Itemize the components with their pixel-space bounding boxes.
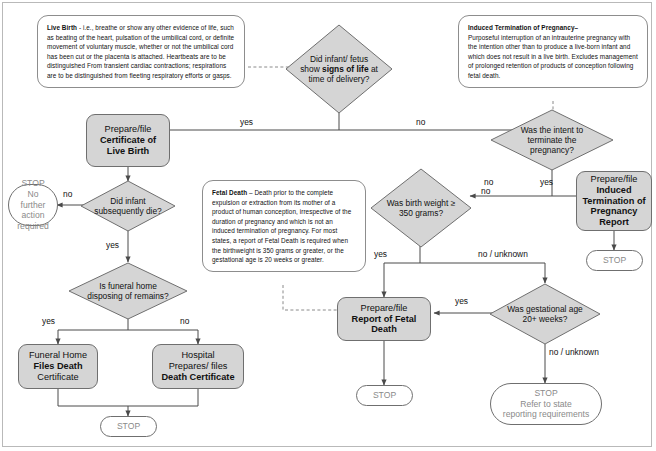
process-live-birth-line1: Prepare/file bbox=[91, 124, 165, 135]
terminator-stop-refer-to-state[interactable]: STOP Refer to state reporting requiremen… bbox=[490, 383, 602, 425]
stop-no-action-line3: action required bbox=[15, 210, 51, 231]
decision-intent-to-terminate[interactable]: Was the intent to terminate the pregnanc… bbox=[490, 109, 614, 171]
process-funeral-home-files-death-certificate[interactable]: Funeral Home Files Death Certificate bbox=[18, 344, 98, 389]
edge-label-weight-yes: yes bbox=[374, 250, 387, 260]
stop-itop-line1: STOP bbox=[603, 255, 626, 266]
edge-label-gest-no-unknown: no / unknown bbox=[549, 348, 599, 358]
decision-funeral-home-disposing[interactable]: Is funeral home disposing of remains? bbox=[68, 262, 188, 320]
funeral-line1: Funeral Home bbox=[29, 350, 87, 361]
edge-label-life-yes: yes bbox=[240, 118, 253, 128]
terminator-stop-fetal-death[interactable]: STOP bbox=[356, 385, 413, 406]
stop-fetal-death-line1: STOP bbox=[373, 390, 396, 401]
stop-no-action-line2: No further bbox=[15, 189, 51, 210]
note-fetal-death-term: Fetal Death bbox=[212, 189, 247, 196]
note-fetal-death-body: – Death prior to the complete expulsion … bbox=[212, 189, 351, 263]
edge-label-subseq-yes: yes bbox=[106, 241, 119, 251]
process-certificate-of-live-birth[interactable]: Prepare/file Certificate of Live Birth bbox=[86, 114, 170, 167]
note-fetal-death: Fetal Death – Death prior to the complet… bbox=[202, 180, 366, 272]
process-hospital-prepares-death-certificate[interactable]: Hospital Prepares/ files Death Certifica… bbox=[152, 344, 244, 389]
decision-signs-of-life[interactable]: Did infant/ fetus show signs of life at … bbox=[285, 24, 393, 114]
process-report-of-fetal-death[interactable]: Prepare/file Report of Fetal Death bbox=[337, 297, 431, 341]
hospital-line1: Hospital bbox=[161, 350, 234, 361]
edge-label-funeral-yes: yes bbox=[42, 317, 55, 327]
edge-label-life-no: no bbox=[416, 118, 425, 128]
txt-em: signs of life bbox=[322, 64, 369, 74]
stop-death-cert-line1: STOP bbox=[117, 421, 140, 432]
stop-no-action-line1: STOP bbox=[15, 178, 51, 189]
decision-gestational-age[interactable]: Was gestational age 20+ weeks? bbox=[489, 283, 601, 345]
terminator-stop-itop[interactable]: STOP bbox=[586, 250, 643, 271]
note-live-birth-term: Live Birth bbox=[47, 24, 77, 31]
flowchart-canvas: Live Birth - i.e., breathe or show any o… bbox=[0, 0, 656, 451]
edge-label-subseq-no: no bbox=[63, 190, 72, 200]
decision-signs-of-life-label: Did infant/ fetus show signs of life at … bbox=[300, 54, 378, 84]
edge-label-weight-no: no bbox=[481, 187, 490, 197]
note-live-birth: Live Birth - i.e., breathe or show any o… bbox=[37, 15, 245, 88]
decision-intent-label: Was the intent to terminate the pregnanc… bbox=[507, 125, 596, 155]
decision-did-infant-subsequently-die[interactable]: Did infant subsequently die? bbox=[80, 180, 176, 232]
hospital-line2: Prepares/ files bbox=[161, 361, 234, 372]
funeral-line3: Certificate bbox=[29, 372, 87, 383]
edge-label-gest-yes: yes bbox=[455, 297, 468, 307]
process-live-birth-line2: Certificate of Live Birth bbox=[91, 135, 165, 157]
decision-birth-weight-label: Was birth weight ≥ 350 grams? bbox=[384, 198, 457, 218]
stop-refer-line2: Refer to state bbox=[503, 399, 589, 410]
decision-funeral-home-label: Is funeral home disposing of remains? bbox=[85, 281, 171, 301]
gest-no-unknown-text: no / unknown bbox=[549, 347, 599, 357]
process-fetal-death-line1: Prepare/file bbox=[342, 303, 426, 314]
edge-label-funeral-no: no bbox=[180, 317, 189, 327]
note-itop-term: Induced Termination of Pregnancy– bbox=[468, 24, 578, 31]
process-itop-line1: Prepare/file bbox=[581, 174, 647, 185]
process-itop-line2: Induced Termination of Pregnancy Report bbox=[581, 185, 647, 228]
decision-gestational-age-label: Was gestational age 20+ weeks? bbox=[505, 304, 586, 324]
stop-refer-line1: STOP bbox=[503, 388, 589, 399]
terminator-stop-death-certificate[interactable]: STOP bbox=[100, 416, 157, 437]
hospital-line3: Death Certificate bbox=[161, 372, 234, 383]
stop-refer-line3: reporting requirements bbox=[503, 409, 589, 420]
decision-subsequent-death-label: Did infant subsequently die? bbox=[93, 196, 162, 216]
note-induced-termination: Induced Termination of Pregnancy–Purpose… bbox=[458, 15, 648, 88]
edge-label-intent-yes: yes bbox=[540, 178, 553, 188]
terminator-stop-no-further-action[interactable]: STOP No further action required bbox=[8, 184, 58, 226]
process-itop-report[interactable]: Prepare/file Induced Termination of Preg… bbox=[576, 171, 652, 231]
note-itop-body: Purposeful interruption of an intrauteri… bbox=[468, 34, 638, 79]
edge-label-weight-no-unknown: no / unknown bbox=[478, 250, 528, 260]
funeral-line2: Files Death bbox=[29, 361, 87, 372]
process-fetal-death-line2: Report of Fetal Death bbox=[342, 314, 426, 336]
note-live-birth-body: - i.e., breathe or show any other eviden… bbox=[47, 24, 234, 79]
decision-birth-weight[interactable]: Was birth weight ≥ 350 grams? bbox=[370, 168, 472, 248]
